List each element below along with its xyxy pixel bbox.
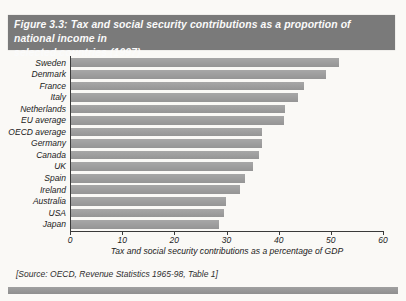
country-label: OECD average: [0, 128, 70, 137]
country-label: Italy: [0, 93, 70, 102]
bar-row: France: [0, 80, 400, 92]
country-label: Denmark: [0, 70, 70, 79]
chart-rows: SwedenDenmarkFranceItalyNetherlandsEU av…: [0, 57, 400, 230]
country-label: Canada: [0, 151, 70, 160]
bottom-divider-bar: [8, 287, 398, 294]
bar-row: Denmark: [0, 69, 400, 81]
bar-chart: SwedenDenmarkFranceItalyNetherlandsEU av…: [0, 0, 406, 301]
x-tick-label: 50: [319, 235, 343, 245]
bar-row: OECD average: [0, 126, 400, 138]
country-label: Japan: [0, 220, 70, 229]
bar: [70, 197, 226, 206]
y-axis-line: [70, 56, 71, 232]
country-label: USA: [0, 209, 70, 218]
country-label: Spain: [0, 174, 70, 183]
bar-row: Netherlands: [0, 103, 400, 115]
country-label: Germany: [0, 139, 70, 148]
bar-row: Japan: [0, 219, 400, 231]
bar-row: Sweden: [0, 57, 400, 69]
bar: [70, 220, 219, 229]
x-axis-title: Tax and social security contributions as…: [70, 246, 384, 256]
bar-row: Germany: [0, 138, 400, 150]
country-label: Ireland: [0, 186, 70, 195]
bar: [70, 116, 284, 125]
bar: [70, 58, 339, 67]
country-label: Sweden: [0, 59, 70, 68]
country-label: Netherlands: [0, 105, 70, 114]
bar: [70, 105, 285, 114]
bar: [70, 128, 262, 137]
figure-page: Figure 3.3: Tax and social security cont…: [0, 0, 406, 301]
bar: [70, 93, 298, 102]
bar: [70, 209, 224, 218]
bar: [70, 139, 262, 148]
x-tick-label: 0: [58, 235, 82, 245]
x-tick-label: 30: [215, 235, 239, 245]
bar: [70, 70, 326, 79]
bar: [70, 162, 253, 171]
bar-row: Italy: [0, 92, 400, 104]
bar-row: Australia: [0, 196, 400, 208]
country-label: France: [0, 82, 70, 91]
x-tick-label: 60: [371, 235, 395, 245]
bar-row: Ireland: [0, 184, 400, 196]
bar-row: USA: [0, 207, 400, 219]
country-label: UK: [0, 162, 70, 171]
bar: [70, 82, 304, 91]
x-tick-label: 40: [267, 235, 291, 245]
bar-row: Canada: [0, 149, 400, 161]
bar-row: Spain: [0, 172, 400, 184]
bar: [70, 185, 240, 194]
x-tick-label: 10: [110, 235, 134, 245]
country-label: Australia: [0, 197, 70, 206]
bar: [70, 174, 245, 183]
source-note: [Source: OECD, Revenue Statistics 1965-9…: [16, 269, 218, 279]
x-tick-label: 20: [162, 235, 186, 245]
bar: [70, 151, 259, 160]
bar-row: EU average: [0, 115, 400, 127]
country-label: EU average: [0, 116, 70, 125]
bar-row: UK: [0, 161, 400, 173]
